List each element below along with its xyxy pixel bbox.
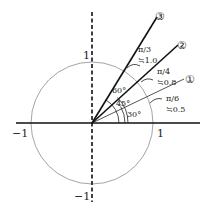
approx-label-60: ≒1.0 (138, 56, 157, 65)
approx-label-30: ≒0.5 (166, 105, 185, 114)
angle-label-30: 30° (127, 110, 141, 119)
rad-label-30: π/6 (166, 94, 179, 103)
approx-label-45: ≒0.8 (157, 78, 176, 87)
marker-1: ① (185, 73, 195, 86)
arrow-30 (150, 99, 162, 104)
angle-label-60: 60° (112, 86, 126, 95)
rad-label-45: π/4 (157, 67, 170, 76)
y-neg-label: −1 (74, 190, 90, 203)
x-neg-label: −1 (12, 127, 28, 140)
arrow-45 (141, 79, 153, 82)
marker-3: ③ (155, 10, 165, 23)
rad-label-60: π/3 (138, 45, 151, 54)
angle-label-45: 45° (116, 99, 130, 108)
x-pos-label: 1 (157, 127, 164, 140)
y-pos-label: 1 (83, 49, 90, 62)
marker-2: ② (177, 39, 187, 52)
unit-circle-diagram: 30° 45° 60° π/6 ≒0.5 π/4 ≒0.8 π/3 ≒1.0 ①… (0, 0, 211, 213)
